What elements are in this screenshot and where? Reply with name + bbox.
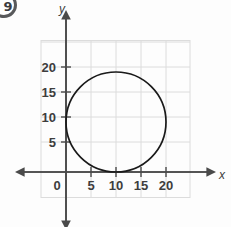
y-tick-label-20: 20 bbox=[42, 60, 56, 75]
question-number-label: 9 bbox=[3, 0, 12, 14]
y-tick-label-15: 15 bbox=[42, 85, 56, 100]
y-tick-label-10: 10 bbox=[42, 110, 56, 125]
circle-graph-svg: 20 15 10 5 0 5 10 15 20 y x bbox=[0, 0, 231, 227]
x-tick-label-15: 15 bbox=[134, 178, 148, 193]
x-tick-label-5: 5 bbox=[87, 178, 94, 193]
x-tick-label-0: 0 bbox=[53, 178, 60, 193]
x-axis-label: x bbox=[218, 168, 226, 182]
y-axis-label: y bbox=[58, 2, 66, 16]
x-tick-label-20: 20 bbox=[159, 178, 173, 193]
x-tick-label-10: 10 bbox=[109, 178, 123, 193]
coordinate-plane-figure: 9 bbox=[0, 0, 231, 227]
y-tick-label-5: 5 bbox=[49, 135, 56, 150]
